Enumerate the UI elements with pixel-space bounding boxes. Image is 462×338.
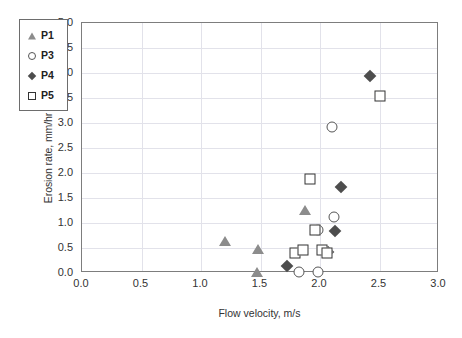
gridline-horizontal	[82, 73, 437, 74]
diamond-filled-icon	[26, 69, 39, 82]
data-point-p4	[280, 259, 293, 272]
data-point-p5	[322, 247, 333, 258]
y-axis-tick-label: 1.0	[27, 216, 73, 228]
data-point-p4	[364, 69, 377, 82]
chart-legend: P1P3P4P5	[19, 19, 68, 111]
data-point-p5	[305, 174, 316, 185]
legend-label: P5	[41, 90, 54, 101]
legend-item-p5: P5	[20, 85, 67, 105]
x-axis-tick-label: 3.0	[413, 277, 462, 289]
legend-item-p3: P3	[20, 45, 67, 65]
x-axis-tick-label: 2.5	[354, 277, 404, 289]
triangle-filled-icon	[26, 29, 39, 42]
data-point-p3	[312, 267, 323, 278]
x-axis-tick-label: 0.0	[56, 277, 106, 289]
legend-label: P4	[41, 70, 54, 81]
data-point-p3	[326, 121, 337, 132]
data-point-p3	[293, 267, 304, 278]
legend-item-p4: P4	[20, 65, 67, 85]
gridline-vertical	[380, 23, 381, 271]
data-point-p1	[219, 236, 231, 246]
data-point-p5	[298, 244, 309, 255]
data-point-p3	[329, 212, 340, 223]
gridline-horizontal	[82, 148, 437, 149]
legend-item-p1: P1	[20, 25, 67, 45]
x-axis-tick-label: 2.0	[294, 277, 344, 289]
y-axis-tick-label: 0.5	[27, 241, 73, 253]
data-point-p1	[299, 205, 311, 215]
gridline-vertical	[201, 23, 202, 271]
data-point-p1	[251, 267, 263, 277]
plot-area	[81, 22, 438, 272]
circle-open-icon	[26, 49, 39, 62]
x-axis-tick-label: 1.5	[235, 277, 285, 289]
scatter-chart-figure: Erosion rate, mm/hr Flow velocity, m/s 0…	[0, 0, 462, 338]
gridline-horizontal	[82, 123, 437, 124]
legend-label: P1	[41, 30, 54, 41]
data-point-p4	[335, 181, 348, 194]
square-open-icon	[26, 89, 39, 102]
data-point-p5	[310, 225, 321, 236]
gridline-vertical	[142, 23, 143, 271]
gridline-horizontal	[82, 198, 437, 199]
x-axis-tick-label: 1.0	[175, 277, 225, 289]
x-axis-tick-label: 0.5	[116, 277, 166, 289]
data-point-p4	[329, 224, 342, 237]
y-axis-tick-label: 3.0	[27, 116, 73, 128]
y-axis-tick-label: 1.5	[27, 191, 73, 203]
gridline-vertical	[261, 23, 262, 271]
legend-label: P3	[41, 50, 54, 61]
data-point-p1	[252, 244, 264, 254]
y-axis-tick-label: 2.0	[27, 166, 73, 178]
gridline-horizontal	[82, 173, 437, 174]
data-point-p5	[374, 90, 385, 101]
gridline-horizontal	[82, 48, 437, 49]
y-axis-tick-label: 2.5	[27, 141, 73, 153]
gridline-horizontal	[82, 223, 437, 224]
